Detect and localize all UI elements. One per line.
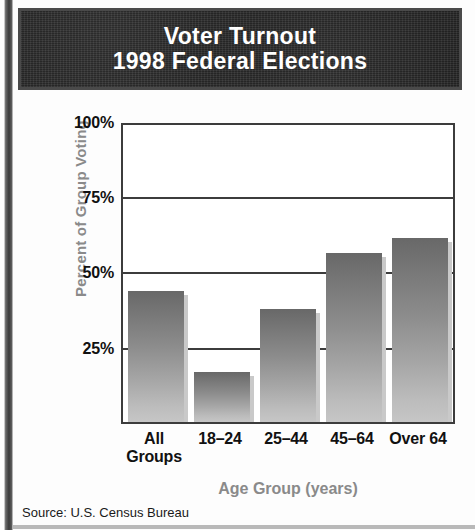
chart-title-line-2: 1998 Federal Elections xyxy=(113,49,368,74)
x-tick-label-3: 45–64 xyxy=(321,430,383,448)
bar-all-groups xyxy=(128,291,184,422)
left-edge-rule xyxy=(4,0,13,530)
bar-over-64 xyxy=(392,238,448,422)
y-axis: Percent of Group Voting 100% 75% 50% 25% xyxy=(40,0,114,530)
x-tick-label-4: Over 64 xyxy=(387,430,449,448)
y-tick-label-50: 50% xyxy=(83,264,114,282)
y-tick-label-100: 100% xyxy=(74,114,114,132)
y-tick-label-75: 75% xyxy=(83,189,114,207)
chart-title-line-1: Voter Turnout xyxy=(164,24,317,49)
bar-25–44 xyxy=(260,309,316,422)
bars-layer xyxy=(123,125,453,422)
x-axis-tick-labels: All Groups18–2425–4445–64Over 64 xyxy=(121,430,455,478)
chart-figure: Voter Turnout 1998 Federal Elections Per… xyxy=(0,0,475,530)
x-tick-label-0: All Groups xyxy=(123,430,185,467)
x-tick-label-2: 25–44 xyxy=(255,430,317,448)
plot-area xyxy=(121,123,455,424)
x-axis-title: Age Group (years) xyxy=(121,480,455,498)
y-tick-label-25: 25% xyxy=(83,340,114,358)
bar-45–64 xyxy=(326,253,382,422)
source-note: Source: U.S. Census Bureau xyxy=(22,505,189,520)
x-tick-label-1: 18–24 xyxy=(189,430,251,448)
bottom-edge-rule xyxy=(13,525,475,529)
bar-18–24 xyxy=(194,372,250,422)
